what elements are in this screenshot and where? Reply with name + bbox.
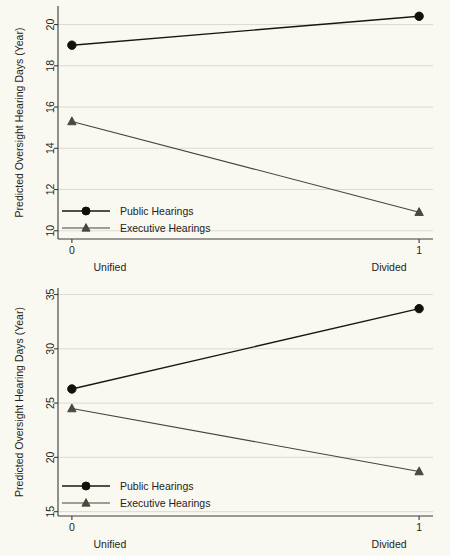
y-tick-label-20: 20 bbox=[44, 451, 56, 463]
legend-item-executive-hearings[interactable]: Executive Hearings bbox=[62, 497, 210, 509]
y-tick-label-12: 12 bbox=[44, 184, 56, 196]
y-tick-label-16: 16 bbox=[44, 101, 56, 113]
x-category-label-unified: Unified bbox=[94, 538, 127, 550]
x-category-label-divided: Divided bbox=[372, 261, 407, 273]
series-line-public-hearings bbox=[72, 16, 419, 45]
chart-panel-top: 101214161820Predicted Oversight Hearing … bbox=[0, 0, 450, 280]
legend-label-public-hearings: Public Hearings bbox=[120, 480, 194, 492]
y-tick-label-18: 18 bbox=[44, 60, 56, 72]
series-line-executive-hearings bbox=[72, 409, 419, 472]
legend-marker-circle-icon bbox=[82, 482, 90, 490]
legend-label-executive-hearings: Executive Hearings bbox=[120, 497, 210, 509]
data-point-public-hearings-0[interactable] bbox=[68, 385, 76, 393]
y-tick-label-30: 30 bbox=[44, 343, 56, 355]
y-axis-title: Predicted Oversight Hearing Days (Year) bbox=[13, 307, 25, 497]
y-tick-label-20: 20 bbox=[44, 19, 56, 31]
x-category-label-unified: Unified bbox=[94, 261, 127, 273]
y-tick-label-15: 15 bbox=[44, 506, 56, 518]
legend-marker-circle-icon bbox=[82, 207, 90, 215]
data-point-public-hearings-0[interactable] bbox=[68, 41, 76, 49]
data-point-public-hearings-1[interactable] bbox=[415, 304, 423, 312]
chart-panel-bottom: 1520253035Predicted Oversight Hearing Da… bbox=[0, 276, 450, 556]
x-category-label-divided: Divided bbox=[372, 538, 407, 550]
legend-label-executive-hearings: Executive Hearings bbox=[120, 222, 210, 234]
legend-label-public-hearings: Public Hearings bbox=[120, 205, 194, 217]
x-tick-label-1: 1 bbox=[416, 521, 422, 533]
y-tick-label-35: 35 bbox=[44, 289, 56, 301]
chart-svg-bottom: 1520253035Predicted Oversight Hearing Da… bbox=[0, 276, 450, 556]
x-tick-label-0: 0 bbox=[69, 521, 75, 533]
y-tick-label-25: 25 bbox=[44, 397, 56, 409]
data-point-public-hearings-1[interactable] bbox=[415, 12, 423, 20]
chart-svg-top: 101214161820Predicted Oversight Hearing … bbox=[0, 0, 450, 280]
y-tick-label-14: 14 bbox=[44, 142, 56, 154]
y-axis-title: Predicted Oversight Hearing Days (Year) bbox=[13, 28, 25, 218]
x-tick-label-0: 0 bbox=[69, 244, 75, 256]
x-tick-label-1: 1 bbox=[416, 244, 422, 256]
data-point-executive-hearings-0[interactable] bbox=[68, 117, 76, 125]
legend-item-executive-hearings[interactable]: Executive Hearings bbox=[62, 222, 210, 234]
legend-marker-triangle-icon bbox=[82, 224, 90, 232]
figure-container: 101214161820Predicted Oversight Hearing … bbox=[0, 0, 450, 556]
y-tick-label-10: 10 bbox=[44, 225, 56, 237]
legend-marker-triangle-icon bbox=[82, 499, 90, 507]
data-point-executive-hearings-0[interactable] bbox=[68, 404, 76, 412]
legend-item-public-hearings[interactable]: Public Hearings bbox=[62, 480, 194, 492]
legend-item-public-hearings[interactable]: Public Hearings bbox=[62, 205, 194, 217]
series-line-executive-hearings bbox=[72, 121, 419, 212]
